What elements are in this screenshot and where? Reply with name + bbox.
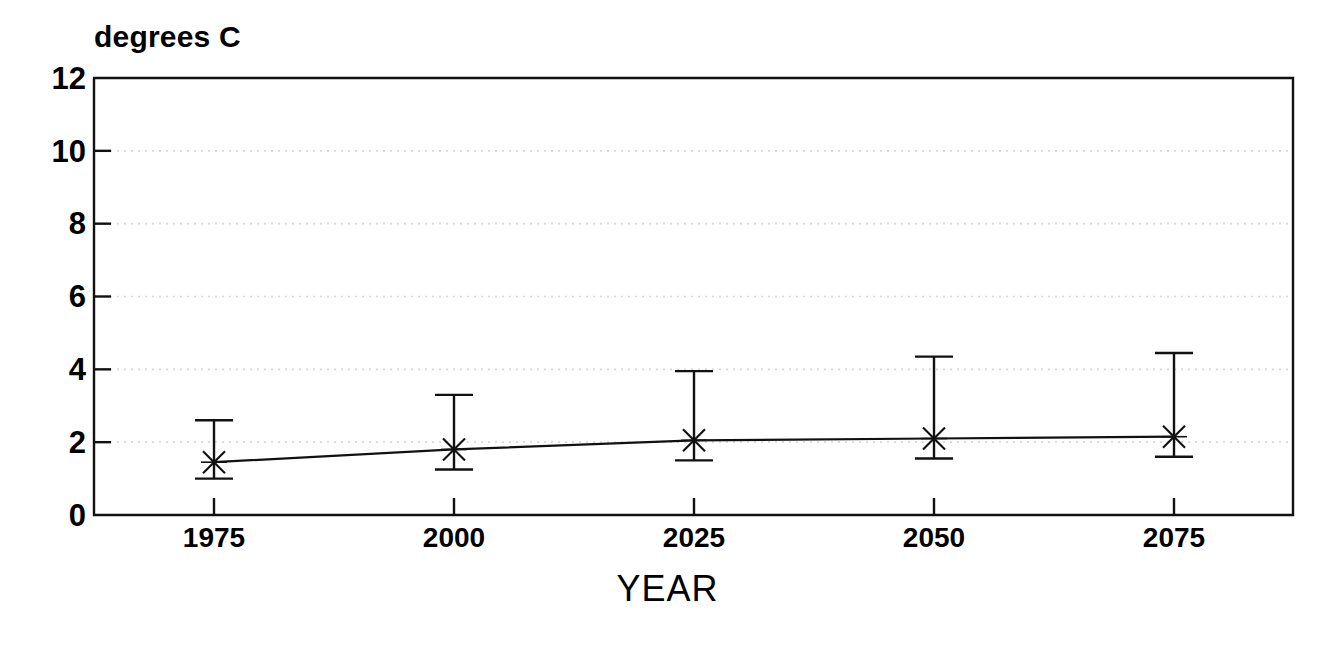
temperature-projection-chart: degrees C 12 10 8 6 4 2 0 1975 2000 2025… [0, 0, 1335, 646]
error-bars [195, 353, 1193, 479]
y-axis-ticks [94, 151, 111, 442]
x-axis-ticks [214, 498, 1174, 515]
plot-area [0, 0, 1335, 646]
